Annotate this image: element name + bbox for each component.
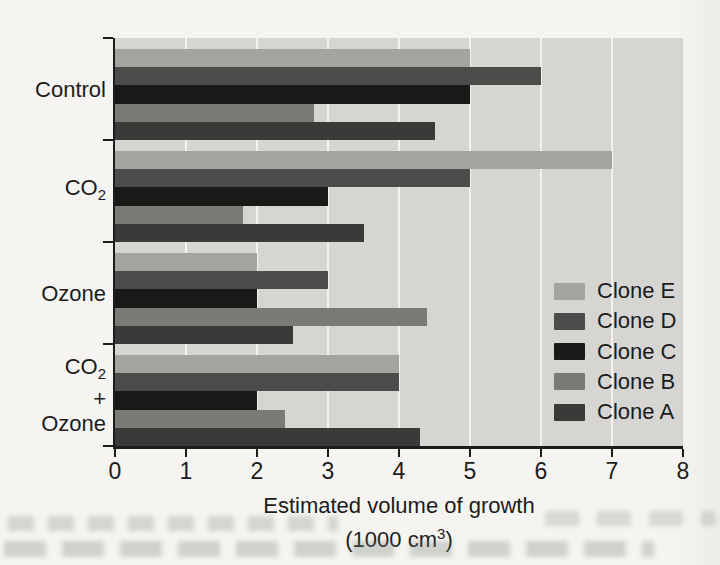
legend-label-clone-e: Clone E: [597, 278, 675, 304]
bar-co-ozone-clone-c: [115, 391, 257, 409]
group-label-ozone: Ozone: [0, 281, 106, 306]
x-tick-3: [327, 449, 330, 457]
bar-ozone-clone-d: [115, 271, 328, 289]
plot-area: Clone EClone DClone CClone BClone A: [115, 38, 683, 446]
x-tick-2: [256, 449, 259, 457]
bar-co-ozone-clone-a: [115, 428, 420, 446]
x-axis-title-line1: Estimated volume of growth: [199, 492, 599, 520]
legend-row: Clone E: [554, 281, 675, 301]
bar-control-clone-a: [115, 122, 435, 140]
group-label-co: CO2: [0, 175, 106, 207]
legend-swatch-clone-b: [554, 373, 585, 390]
x-tick-6: [540, 449, 543, 457]
x-tick-label-2: 2: [235, 459, 279, 483]
bar-co-ozone-clone-e: [115, 355, 399, 373]
y-tick-4: [103, 445, 113, 448]
bar-co-clone-a: [115, 224, 364, 242]
y-tick-2: [103, 241, 113, 244]
y-tick-3: [103, 343, 113, 346]
x-tick-5: [469, 449, 472, 457]
bar-co-ozone-clone-b: [115, 410, 285, 428]
legend-label-clone-c: Clone C: [597, 339, 676, 365]
bar-ozone-clone-b: [115, 308, 427, 326]
legend-swatch-clone-d: [554, 313, 585, 330]
bar-control-clone-e: [115, 49, 470, 67]
bar-chart-figure: Clone EClone DClone CClone BClone A 0123…: [0, 0, 720, 565]
x-tick-label-7: 7: [590, 459, 634, 483]
x-tick-8: [682, 449, 685, 457]
x-tick-1: [185, 449, 188, 457]
legend-row: Clone B: [554, 372, 675, 392]
x-tick-label-8: 8: [661, 459, 705, 483]
legend-row: Clone A: [554, 402, 674, 422]
bar-co-clone-c: [115, 187, 328, 205]
bar-control-clone-d: [115, 67, 541, 85]
y-axis-line: [113, 38, 116, 449]
y-tick-0: [103, 37, 113, 40]
x-axis-title-line2: (1000 cm3): [199, 520, 599, 554]
bar-co-ozone-clone-d: [115, 373, 399, 391]
x-axis-title: Estimated volume of growth (1000 cm3): [199, 492, 599, 554]
bar-control-clone-c: [115, 85, 470, 103]
bar-co-clone-b: [115, 206, 243, 224]
legend-swatch-clone-e: [554, 283, 585, 300]
bar-co-clone-e: [115, 151, 612, 169]
bar-control-clone-b: [115, 104, 314, 122]
legend-label-clone-b: Clone B: [597, 369, 675, 395]
legend-row: Clone D: [554, 311, 676, 331]
x-tick-label-3: 3: [306, 459, 350, 483]
group-label-co-ozone: CO2+Ozone: [0, 354, 106, 436]
gridline: [540, 38, 542, 446]
x-tick-label-4: 4: [377, 459, 421, 483]
legend-row: Clone C: [554, 342, 676, 362]
bar-ozone-clone-e: [115, 253, 257, 271]
bar-ozone-clone-a: [115, 326, 293, 344]
legend-label-clone-d: Clone D: [597, 308, 676, 334]
x-tick-label-6: 6: [519, 459, 563, 483]
x-tick-label-0: 0: [93, 459, 137, 483]
x-tick-7: [611, 449, 614, 457]
x-tick-4: [398, 449, 401, 457]
x-tick-label-5: 5: [448, 459, 492, 483]
legend-label-clone-a: Clone A: [597, 399, 674, 425]
bar-co-clone-d: [115, 169, 470, 187]
legend-swatch-clone-c: [554, 343, 585, 360]
legend-swatch-clone-a: [554, 404, 585, 421]
x-tick-0: [114, 449, 117, 457]
group-label-control: Control: [0, 77, 106, 102]
bar-ozone-clone-c: [115, 289, 257, 307]
y-tick-1: [103, 139, 113, 142]
x-tick-label-1: 1: [164, 459, 208, 483]
